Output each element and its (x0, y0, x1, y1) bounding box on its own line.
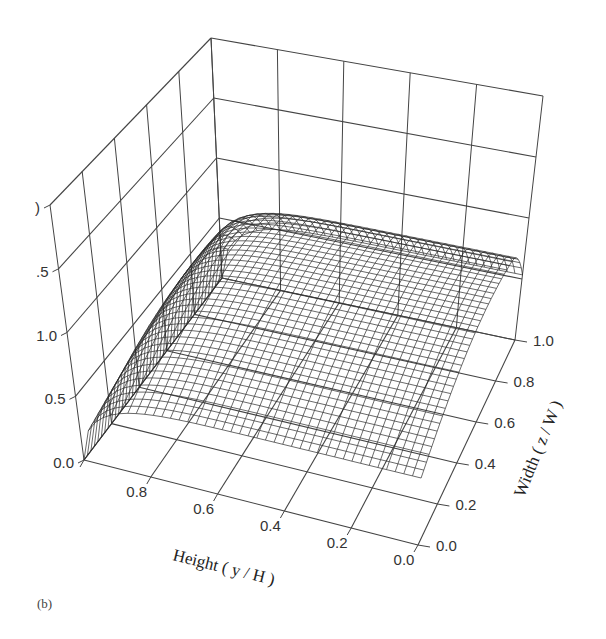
axis-box-grid (44, 38, 543, 552)
x-axis-label: Height ( y / H ) (171, 545, 277, 589)
z-tick-label: 0.5 (45, 390, 66, 407)
y-tick-label: 1.0 (533, 332, 554, 349)
z-tick-label: 0.0 (53, 454, 74, 471)
x-tick-label: 0.8 (126, 483, 147, 500)
panel-label: (b) (37, 596, 52, 612)
x-tick-label: 0.6 (193, 500, 214, 517)
y-axis-label: Width ( z / W ) (510, 398, 566, 500)
z-tick-label: 1.0 (36, 327, 57, 344)
x-tick-label: 0.0 (394, 551, 415, 568)
z-tick-label: ) (35, 199, 40, 216)
y-tick-label: 0.6 (494, 414, 515, 431)
z-tick-label: .5 (36, 263, 49, 280)
y-tick-label: 0.4 (475, 455, 496, 472)
wireframe-surface (84, 213, 523, 478)
x-tick-label: 0.2 (327, 534, 348, 551)
surface-plot: 0.00.20.40.60.80.00.20.40.60.81.00.00.51… (0, 0, 606, 639)
y-tick-label: 0.8 (514, 373, 535, 390)
x-tick-label: 0.4 (260, 517, 281, 534)
y-tick-label: 0.2 (455, 496, 476, 513)
y-tick-label: 0.0 (436, 537, 457, 554)
